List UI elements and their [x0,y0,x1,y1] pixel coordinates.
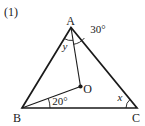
geometry-problem-figure: (1) A B C O 30° y 20° x [0,0,145,126]
vertex-label-C: C [132,111,140,125]
triangle-diagram: (1) A B C O 30° y 20° x [0,0,145,126]
point-label-O: O [83,82,92,96]
angle-label-x: x [117,91,123,103]
vertex-label-B: B [13,111,21,125]
point-O-dot [78,84,82,88]
angle-arc-20-at-B [48,99,50,109]
angle-label-y: y [62,40,68,52]
figure-number: (1) [4,5,18,19]
angle-label-30: 30° [90,23,105,35]
segment-BO [22,87,81,109]
angle-arc-x-at-C [126,100,130,109]
angle-label-20: 20° [52,95,67,107]
vertex-label-A: A [66,14,75,28]
